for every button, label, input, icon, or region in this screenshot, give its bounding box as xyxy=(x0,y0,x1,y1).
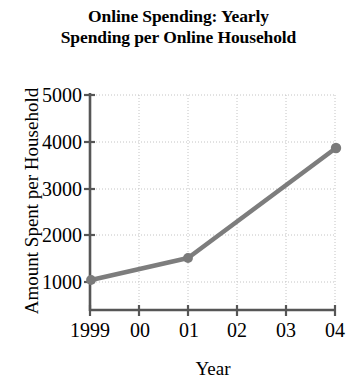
data-point-2004 xyxy=(331,143,341,153)
data-point-2001 xyxy=(183,253,193,263)
data-markers xyxy=(86,143,341,285)
vertical-gridlines xyxy=(139,95,335,310)
data-line-series-1 xyxy=(91,148,336,280)
data-point-1999 xyxy=(86,275,96,285)
plot-area xyxy=(0,0,357,380)
horizontal-gridlines xyxy=(90,95,336,282)
chart-figure: Online Spending: Yearly Spending per Onl… xyxy=(0,0,357,380)
